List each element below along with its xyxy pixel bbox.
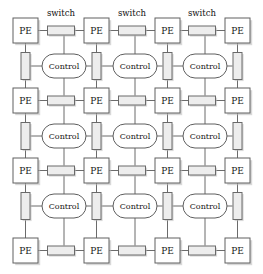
pe-node-label: PE: [161, 96, 174, 106]
pe-node-label: PE: [231, 166, 244, 176]
control-node[interactable]: Control: [183, 124, 227, 148]
control-node-label: Control: [190, 132, 221, 141]
pe-node-label: PE: [231, 26, 244, 36]
horizontal-switch[interactable]: [189, 246, 218, 257]
pe-node[interactable]: PE: [84, 158, 111, 185]
vertical-switch[interactable]: [92, 193, 103, 222]
pe-node-label: PE: [90, 166, 103, 176]
switch-body[interactable]: [21, 123, 30, 150]
control-node[interactable]: Control: [113, 124, 157, 148]
pe-node[interactable]: PE: [155, 18, 182, 45]
pe-node[interactable]: PE: [84, 238, 111, 265]
horizontal-switch[interactable]: [48, 96, 77, 107]
switch-body[interactable]: [92, 193, 101, 220]
switch-body[interactable]: [189, 26, 216, 35]
pe-node[interactable]: PE: [155, 88, 182, 115]
switch-body[interactable]: [119, 96, 146, 105]
pe-node[interactable]: PE: [84, 88, 111, 115]
control-node[interactable]: Control: [183, 194, 227, 218]
pe-node[interactable]: PE: [155, 158, 182, 185]
switch-body[interactable]: [92, 53, 101, 80]
pe-node[interactable]: PE: [225, 18, 252, 45]
switch-body[interactable]: [119, 246, 146, 255]
pe-node-label: PE: [19, 96, 32, 106]
vertical-switch[interactable]: [233, 123, 244, 152]
switch-captions-layer: switchswitchswitch: [47, 8, 217, 18]
control-node[interactable]: Control: [42, 54, 86, 78]
switch-body[interactable]: [119, 166, 146, 175]
horizontal-switch[interactable]: [189, 26, 218, 37]
vertical-switch[interactable]: [21, 193, 32, 222]
switch-body[interactable]: [21, 53, 30, 80]
control-node-label: Control: [49, 132, 80, 141]
pe-node-label: PE: [161, 26, 174, 36]
switch-body[interactable]: [48, 26, 75, 35]
switch-body[interactable]: [163, 193, 172, 220]
horizontal-switch[interactable]: [119, 246, 148, 257]
pe-node[interactable]: PE: [225, 158, 252, 185]
horizontal-switch[interactable]: [48, 166, 77, 177]
vertical-switch[interactable]: [21, 53, 32, 82]
control-node-label: Control: [120, 202, 151, 211]
vertical-switch[interactable]: [163, 53, 174, 82]
horizontal-switch[interactable]: [48, 246, 77, 257]
control-node[interactable]: Control: [113, 54, 157, 78]
horizontal-switch[interactable]: [189, 166, 218, 177]
control-node[interactable]: Control: [42, 194, 86, 218]
pe-node-label: PE: [90, 96, 103, 106]
switch-body[interactable]: [21, 193, 30, 220]
switch-body[interactable]: [233, 193, 242, 220]
switch-body[interactable]: [189, 246, 216, 255]
pe-node[interactable]: PE: [13, 238, 40, 265]
horizontal-switch[interactable]: [119, 26, 148, 37]
pe-node[interactable]: PE: [225, 88, 252, 115]
switch-body[interactable]: [233, 123, 242, 150]
vertical-switch[interactable]: [92, 123, 103, 152]
switch-body[interactable]: [48, 166, 75, 175]
pe-node[interactable]: PE: [155, 238, 182, 265]
horizontal-switch[interactable]: [48, 26, 77, 37]
switch-caption: switch: [118, 8, 147, 18]
vertical-switch[interactable]: [163, 123, 174, 152]
control-nodes-layer: ControlControlControlControlControlContr…: [42, 54, 227, 218]
switch-body[interactable]: [119, 26, 146, 35]
switch-body[interactable]: [163, 123, 172, 150]
control-node-label: Control: [120, 132, 151, 141]
control-node[interactable]: Control: [183, 54, 227, 78]
control-node-label: Control: [120, 62, 151, 71]
switch-body[interactable]: [48, 96, 75, 105]
horizontal-switch[interactable]: [189, 96, 218, 107]
switch-body[interactable]: [48, 246, 75, 255]
pe-node-label: PE: [19, 166, 32, 176]
pe-node-label: PE: [231, 96, 244, 106]
vertical-switch[interactable]: [21, 123, 32, 152]
pe-node-label: PE: [90, 246, 103, 256]
pe-node[interactable]: PE: [13, 88, 40, 115]
control-node[interactable]: Control: [113, 194, 157, 218]
switch-caption: switch: [47, 8, 76, 18]
vertical-switch[interactable]: [92, 53, 103, 82]
switch-body[interactable]: [189, 96, 216, 105]
pe-node[interactable]: PE: [84, 18, 111, 45]
horizontal-switch[interactable]: [119, 166, 148, 177]
vertical-switch[interactable]: [233, 193, 244, 222]
switch-body[interactable]: [233, 53, 242, 80]
vertical-switch[interactable]: [163, 193, 174, 222]
switch-body[interactable]: [92, 123, 101, 150]
pe-node[interactable]: PE: [13, 158, 40, 185]
switch-body[interactable]: [163, 53, 172, 80]
pe-node-label: PE: [161, 166, 174, 176]
control-node[interactable]: Control: [42, 124, 86, 148]
pe-node[interactable]: PE: [13, 18, 40, 45]
switch-body[interactable]: [189, 166, 216, 175]
pe-node-label: PE: [90, 26, 103, 36]
horizontal-switch[interactable]: [119, 96, 148, 107]
vertical-switch[interactable]: [233, 53, 244, 82]
pe-node[interactable]: PE: [225, 238, 252, 265]
diagram-canvas: ControlControlControlControlControlContr…: [0, 0, 263, 274]
control-node-label: Control: [190, 62, 221, 71]
switch-caption: switch: [188, 8, 217, 18]
control-node-label: Control: [190, 202, 221, 211]
mesh-architecture-diagram: ControlControlControlControlControlContr…: [0, 0, 263, 274]
pe-node-label: PE: [231, 246, 244, 256]
